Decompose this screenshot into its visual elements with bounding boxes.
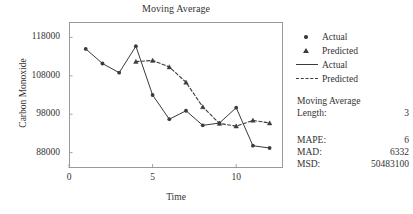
accuracy-label-1: MAD: — [297, 146, 322, 158]
accuracy-value-0: 6 — [404, 134, 409, 146]
data-point-actual-10 — [251, 144, 255, 148]
x-tick-label-0: 0 — [54, 172, 84, 182]
data-point-predicted-8 — [267, 121, 272, 125]
data-point-actual-11 — [268, 146, 272, 150]
moving-average-heading: Moving Average — [297, 96, 409, 106]
line-dashed-icon — [296, 72, 318, 85]
moving-average-chart: Moving Average 8800098000108000118000 05… — [0, 0, 413, 214]
accuracy-value-1: 6332 — [390, 146, 409, 158]
marker-triangle-icon — [296, 44, 318, 57]
marker-circle-icon-glyph — [304, 35, 308, 39]
accuracy-measures-panel: MAPE:6MAD:6332MSD:50483100 — [297, 134, 409, 170]
data-point-actual-0 — [84, 47, 88, 51]
legend-label-2: Actual — [318, 60, 347, 70]
legend-entry-2: Actual — [296, 58, 408, 71]
accuracy-value-2: 50483100 — [371, 158, 409, 170]
x-tick-label-1: 5 — [138, 172, 168, 182]
marker-circle-icon — [296, 30, 318, 43]
accuracy-row-1: MAD:6332 — [297, 146, 409, 158]
series-line-predicted-1 — [136, 60, 270, 126]
line-solid-icon — [296, 58, 318, 71]
moving-average-length-label: Length: — [297, 107, 327, 119]
x-tick-label-2: 10 — [221, 172, 251, 182]
chart-title: Moving Average — [69, 3, 283, 14]
accuracy-label-2: MSD: — [297, 158, 320, 170]
accuracy-row-2: MSD:50483100 — [297, 158, 409, 170]
data-point-predicted-1 — [150, 58, 155, 62]
marker-triangle-icon-glyph — [303, 48, 309, 53]
data-point-actual-4 — [151, 93, 155, 97]
accuracy-label-0: MAPE: — [297, 134, 326, 146]
line-solid-icon-glyph — [296, 64, 318, 65]
data-point-actual-7 — [201, 123, 205, 127]
legend-entry-0: Actual — [296, 30, 408, 43]
legend-label-0: Actual — [318, 32, 347, 42]
series-line-actual-0 — [86, 46, 270, 148]
x-axis-title: Time — [69, 192, 283, 202]
data-point-actual-5 — [167, 117, 171, 121]
accuracy-row-0: MAPE:6 — [297, 134, 409, 146]
moving-average-length-value: 3 — [404, 107, 409, 119]
data-point-actual-2 — [117, 71, 121, 75]
chart-legend: ActualPredictedActualPredicted — [296, 30, 408, 86]
moving-average-length-row: Length: 3 — [297, 107, 409, 119]
line-dashed-icon-glyph — [296, 78, 318, 79]
data-point-predicted-4 — [200, 105, 205, 109]
data-point-actual-6 — [184, 109, 188, 113]
moving-average-panel: Moving Average Length: 3 — [297, 96, 409, 119]
legend-entry-3: Predicted — [296, 72, 408, 85]
y-axis-title: Carbon Monoxide — [18, 23, 28, 163]
data-point-actual-9 — [234, 106, 238, 110]
data-point-actual-1 — [101, 62, 105, 66]
data-point-actual-3 — [134, 44, 138, 48]
legend-label-1: Predicted — [318, 46, 358, 56]
legend-label-3: Predicted — [318, 74, 358, 84]
plot-series-canvas — [69, 22, 283, 168]
legend-entry-1: Predicted — [296, 44, 408, 57]
